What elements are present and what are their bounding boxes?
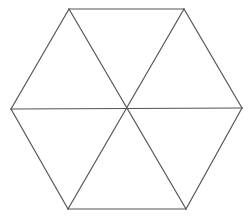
edge-top-right [184, 9, 242, 108]
edge-bottom-left [11, 109, 68, 209]
diagonal-left-right [11, 108, 242, 109]
edge-top-left [11, 9, 69, 109]
inner-diagonals [11, 9, 242, 209]
edge-bottom-right [186, 108, 242, 209]
hexagon-diagram [0, 0, 249, 223]
hexagon-svg [0, 0, 249, 223]
